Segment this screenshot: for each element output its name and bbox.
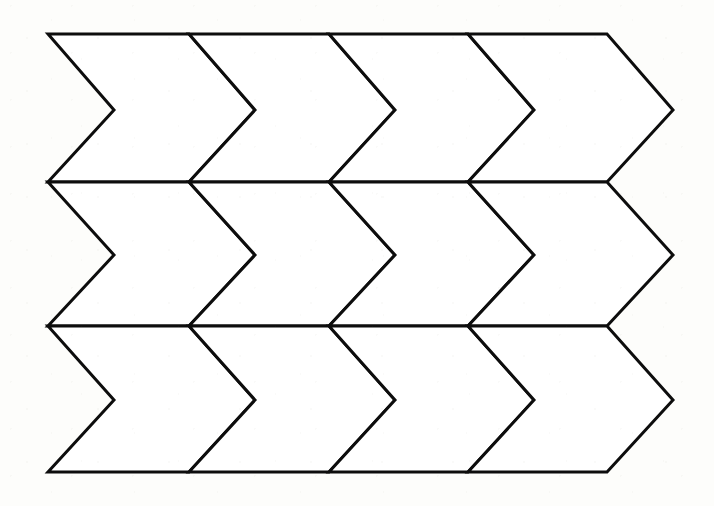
chevron-row (48, 182, 673, 326)
figure-root: Chevron tessellation pattern A plane-fil… (0, 0, 714, 506)
chevron-tessellation-figure: Chevron tessellation pattern A plane-fil… (0, 0, 714, 506)
chevron-row (48, 326, 673, 472)
chevron-row (48, 34, 673, 182)
chevron-tiles-layer (48, 34, 673, 472)
